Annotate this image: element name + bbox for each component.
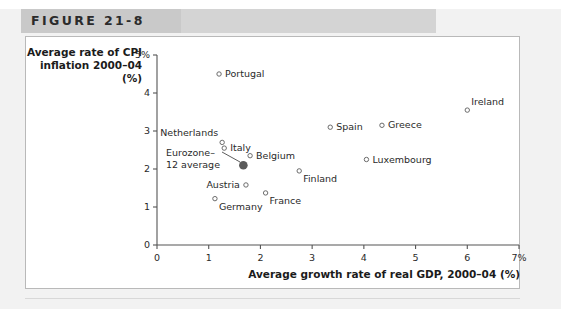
y-axis-title-line-3: (%) (22, 72, 142, 85)
eurozone-average-callout: Eurozone– 12 average (166, 147, 220, 170)
top-white-strip (0, 0, 561, 9)
bottom-divider-rule (25, 298, 520, 299)
figure-number-label: FIGURE 21-8 (31, 13, 145, 29)
figure-header-band: FIGURE 21-8 (21, 9, 436, 33)
eurozone-callout-line-1: Eurozone– (166, 147, 220, 159)
figure-root: FIGURE 21-8 Average rate of CPI inflatio… (0, 0, 561, 309)
y-axis-title-line-1: Average rate of CPI (22, 46, 142, 59)
y-axis-title-line-2: inflation 2000–04 (22, 59, 142, 72)
eurozone-callout-line-2: 12 average (166, 159, 220, 171)
y-axis-title: Average rate of CPI inflation 2000–04 (%… (22, 46, 142, 85)
x-axis-title: Average growth rate of real GDP, 2000–04… (200, 268, 520, 280)
